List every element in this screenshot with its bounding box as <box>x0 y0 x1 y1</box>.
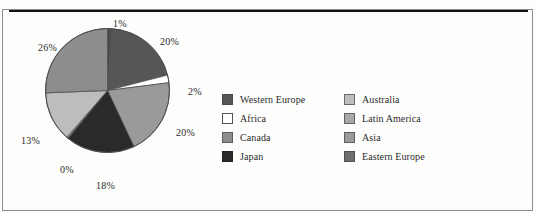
legend-item-japan[interactable]: Japan <box>222 149 344 164</box>
legend-item-canada[interactable]: Canada <box>222 130 344 145</box>
legend-item-africa[interactable]: Africa <box>222 111 344 126</box>
pie-label-0pct: 0% <box>60 164 74 175</box>
legend-label-western-europe: Western Europe <box>240 94 305 105</box>
legend-label-canada: Canada <box>240 132 271 143</box>
legend-swatch-africa <box>222 113 233 124</box>
legend-swatch-latin-america <box>344 113 355 124</box>
legend-swatch-japan <box>222 151 233 162</box>
legend-swatch-canada <box>222 132 233 143</box>
pie-chart-figure: 1%20%2%20%18%0%13%26% Western EuropeAfri… <box>0 0 536 214</box>
legend-item-eastern-europe[interactable]: Eastern Europe <box>344 149 494 164</box>
pie-label-13pct: 13% <box>21 135 40 146</box>
chart-legend: Western EuropeAfricaCanadaJapanAustralia… <box>222 92 512 164</box>
chart-area: 1%20%2%20%18%0%13%26% Western EuropeAfri… <box>0 0 536 214</box>
legend-swatch-eastern-europe <box>344 151 355 162</box>
pie-label-26pct: 26% <box>38 42 57 53</box>
legend-label-africa: Africa <box>240 113 266 124</box>
pie-chart-svg <box>45 28 170 153</box>
pie-chart <box>45 28 170 153</box>
pie-label-20pct-asia: 20% <box>176 127 195 138</box>
pie-label-2pct: 2% <box>188 86 202 97</box>
legend-label-asia: Asia <box>362 132 381 143</box>
legend-label-japan: Japan <box>240 151 263 162</box>
legend-item-asia[interactable]: Asia <box>344 130 494 145</box>
legend-swatch-western-europe <box>222 94 233 105</box>
legend-item-australia[interactable]: Australia <box>344 92 494 107</box>
legend-swatch-australia <box>344 94 355 105</box>
legend-item-latin-america[interactable]: Latin America <box>344 111 494 126</box>
legend-label-australia: Australia <box>362 94 400 105</box>
pie-slice-group <box>46 29 170 153</box>
legend-label-latin-america: Latin America <box>362 113 421 124</box>
legend-swatch-asia <box>344 132 355 143</box>
pie-label-18pct: 18% <box>96 180 115 191</box>
pie-label-20pct-western-europe: 20% <box>160 36 179 47</box>
pie-slice-canada[interactable] <box>46 29 108 93</box>
legend-item-western-europe[interactable]: Western Europe <box>222 92 344 107</box>
legend-column-left: Western EuropeAfricaCanadaJapan <box>222 92 344 164</box>
legend-column-right: AustraliaLatin AmericaAsiaEastern Europe <box>344 92 494 164</box>
pie-label-1pct: 1% <box>113 18 127 29</box>
legend-label-eastern-europe: Eastern Europe <box>362 151 425 162</box>
